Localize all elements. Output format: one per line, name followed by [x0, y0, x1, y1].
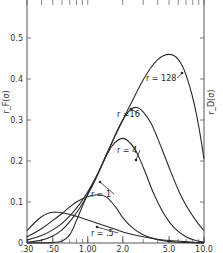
arrow-head-icon — [181, 72, 184, 75]
curve-label: r =16 — [117, 110, 140, 119]
curve-r-5 — [27, 212, 204, 243]
arrow-head-icon — [135, 159, 138, 162]
y-tick-label: 0.5 — [10, 34, 23, 43]
arrow-head-icon — [99, 181, 102, 184]
curve-label: r = 1 — [91, 190, 111, 199]
y-tick-label: 0.4 — [10, 75, 23, 84]
curve-r-16 — [27, 107, 204, 242]
x-tick-label: 2.0 — [116, 245, 129, 253]
y-tick-label: 0.2 — [10, 157, 23, 166]
arrow-head-icon — [130, 108, 133, 111]
curve-label: r = 128 — [146, 74, 176, 83]
y-tick-label: 0.1 — [10, 198, 23, 207]
y-tick-label: 0.3 — [10, 116, 23, 125]
x-tick-label: 5.0 — [163, 245, 176, 253]
x-tick-label: .50 — [46, 245, 59, 253]
curve-labels: r = 128r =16r = 4r = 1r = .5 — [91, 72, 183, 238]
arrow-head-icon — [96, 226, 99, 229]
x-tick-label: 1.00 — [79, 245, 97, 253]
curves — [27, 54, 204, 243]
x-tick-label: .30 — [21, 245, 34, 253]
curve-label: r = .5 — [91, 229, 114, 238]
chart: 00.10.20.30.40.5.30.501.002.05.010.0r_F(… — [0, 0, 223, 253]
x-tick-label: 10.0 — [195, 245, 213, 253]
y-axis-label-left: r_F(σ) — [2, 90, 11, 113]
curve-label: r = 4 — [117, 146, 137, 155]
curve-r-128 — [27, 54, 204, 243]
y-axis-label-right: r_D(σ) — [207, 90, 216, 115]
curve-r-4 — [27, 138, 204, 242]
axes: 00.10.20.30.40.5.30.501.002.05.010.0r_F(… — [2, 0, 216, 253]
